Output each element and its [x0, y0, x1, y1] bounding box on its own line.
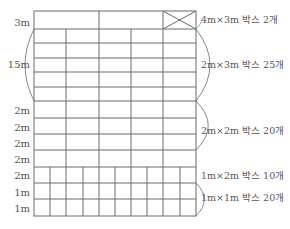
- dimension-label: 3m: [0, 18, 30, 28]
- dimension-label: 1m: [0, 188, 30, 198]
- dimension-label: 2m: [0, 155, 30, 165]
- dimension-label: 2m: [0, 123, 30, 133]
- dimension-label: 2m: [0, 171, 30, 181]
- dimension-label: 1m: [0, 204, 30, 214]
- box-count-label: 4m×3m 박스 2개: [201, 15, 278, 25]
- box-count-label: 1m×2m 박스 10개: [201, 171, 284, 181]
- box-count-label: 2m×3m 박스 25개: [201, 60, 284, 70]
- box-layout-diagram: 3m15m2m2m2m2m2m1m1m 4m×3m 박스 2개2m×3m 박스 …: [0, 0, 290, 229]
- dimension-label: 15m: [0, 60, 30, 70]
- dimension-label: 2m: [0, 106, 30, 116]
- box-count-label: 2m×2m 박스 20개: [201, 126, 284, 136]
- dimension-label: 2m: [0, 139, 30, 149]
- box-count-label: 1m×1m 박스 20개: [201, 193, 284, 203]
